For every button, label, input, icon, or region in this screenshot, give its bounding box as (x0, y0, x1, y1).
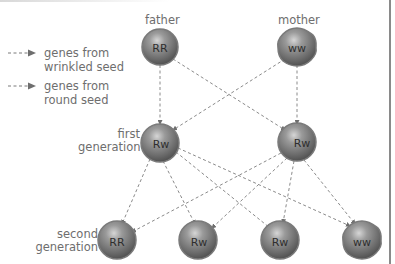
pea-mother: ww (278, 28, 316, 66)
legend-item-wrinkled: genes from wrinkled seed (8, 47, 124, 74)
first-generation-label: first generation (78, 128, 140, 154)
pea-second-2: Rw (179, 221, 217, 259)
second-generation-label: second generation (30, 228, 98, 254)
svg-text:Rw: Rw (153, 138, 170, 151)
father-label: father (145, 14, 180, 27)
pea-first-right: Rw (278, 123, 316, 161)
mother-label: mother (278, 14, 320, 27)
pea-second-3: Rw (261, 221, 299, 259)
pea-second-1: RR (98, 221, 136, 259)
legend-item-round: genes from round seed (8, 80, 109, 107)
legend-label-wrinkled: genes from wrinkled seed (44, 47, 124, 74)
svg-text:Rw: Rw (191, 236, 208, 249)
svg-text:Rw: Rw (294, 137, 311, 150)
inheritance-diagram: RR ww Rw Rw RR Rw Rw ww (0, 0, 395, 264)
pea-father: RR (142, 29, 178, 65)
dashed-arrow-icon (8, 47, 38, 59)
dashed-arrow-icon (8, 80, 38, 92)
svg-text:Rw: Rw (272, 236, 289, 249)
svg-text:RR: RR (152, 42, 168, 55)
legend-label-round: genes from round seed (44, 80, 109, 107)
pea-first-left: Rw (141, 124, 179, 162)
svg-text:ww: ww (353, 236, 371, 249)
svg-text:RR: RR (109, 236, 125, 249)
pea-second-4: ww (343, 221, 381, 259)
svg-text:ww: ww (288, 42, 306, 55)
